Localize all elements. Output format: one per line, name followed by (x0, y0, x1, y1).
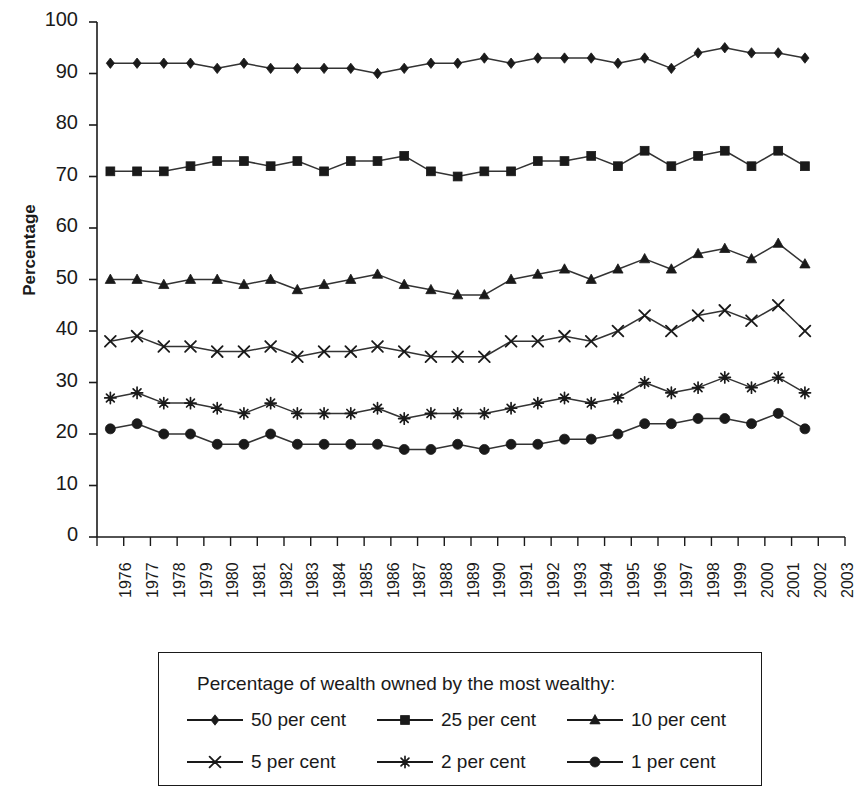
legend-heading: Percentage of wealth owned by the most w… (197, 673, 615, 695)
legend-label: 10 per cent (631, 709, 726, 731)
legend-entry-25: 25 per cent (377, 709, 567, 731)
legend-entry-10: 10 per cent (567, 709, 757, 731)
triangle-icon (567, 710, 623, 730)
legend: Percentage of wealth owned by the most w… (158, 652, 762, 786)
legend-label: 50 per cent (251, 709, 346, 731)
circle-icon (567, 752, 623, 772)
series-triangle (105, 238, 810, 299)
legend-entry-50: 50 per cent (187, 709, 377, 731)
legend-row: 5 per cent 2 per cent 1 per cent (187, 751, 757, 773)
series-diamond (106, 43, 809, 79)
legend-entry-1: 1 per cent (567, 751, 757, 773)
legend-label: 2 per cent (441, 751, 526, 773)
x-marker-icon (187, 752, 243, 772)
series-line (110, 243, 805, 295)
legend-label: 1 per cent (631, 751, 716, 773)
series-asterisk (105, 372, 811, 424)
legend-entry-2: 2 per cent (377, 751, 567, 773)
legend-label: 25 per cent (441, 709, 536, 731)
square-icon (377, 710, 433, 730)
legend-label: 5 per cent (251, 751, 336, 773)
series-square (106, 146, 809, 181)
series-x (105, 300, 810, 362)
legend-row: 50 per cent 25 per cent 10 per cent (187, 709, 757, 731)
chart-root: Percentage 1009080706050403020100 197619… (0, 0, 856, 796)
asterisk-icon (377, 752, 433, 772)
plot-area (0, 0, 856, 640)
diamond-icon (187, 710, 243, 730)
legend-entry-5: 5 per cent (187, 751, 377, 773)
